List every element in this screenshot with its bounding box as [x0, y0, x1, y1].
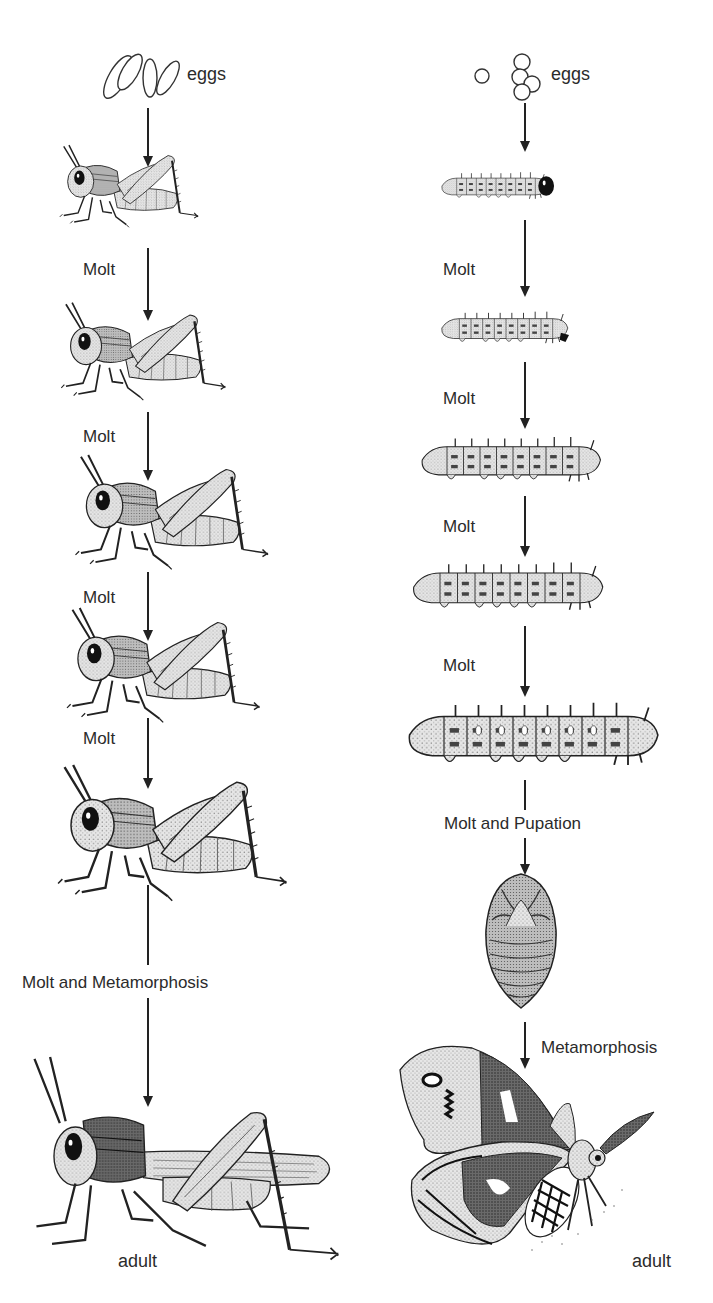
caterpillar-larva-2-illustration: [436, 300, 576, 356]
arrow-line: [524, 362, 526, 420]
arrow-head: [520, 141, 530, 152]
caterpillar-larva-3-illustration: [414, 428, 612, 492]
grasshopper-nymph-5-illustration: [28, 765, 310, 905]
right-adult-label: adult: [632, 1251, 671, 1272]
moth-eggs-icon: [470, 50, 540, 106]
caterpillar-larva-4-illustration: [405, 556, 615, 618]
left-metamorphosis-label: Molt and Metamorphosis: [22, 973, 208, 993]
left-molt-4-label: Molt: [83, 729, 115, 749]
right-molt-2-label: Molt: [443, 389, 475, 409]
grasshopper-nymph-2-illustration: [52, 292, 230, 414]
right-eggs-label: eggs: [551, 64, 590, 85]
grasshopper-eggs-icon: [100, 50, 180, 105]
arrow-line: [524, 220, 526, 288]
right-molt-4-label: Molt: [443, 656, 475, 676]
right-molt-3-label: Molt: [443, 517, 475, 537]
moth-adult-illustration: [392, 1030, 662, 1265]
arrow-line: [524, 838, 526, 866]
left-eggs-label: eggs: [187, 64, 226, 85]
pupa-chrysalis-illustration: [482, 870, 560, 1012]
arrow-line: [524, 626, 526, 688]
left-molt-2-label: Molt: [83, 427, 115, 447]
arrow-head: [520, 286, 530, 297]
grasshopper-nymph-1-illustration: [52, 125, 202, 250]
grasshopper-adult-illustration: [15, 1055, 350, 1240]
arrow-line: [524, 496, 526, 548]
left-adult-label: adult: [118, 1251, 157, 1272]
arrow-line: [147, 885, 149, 965]
right-molt-1-label: Molt: [443, 260, 475, 280]
arrow-line: [524, 780, 526, 810]
grasshopper-nymph-4-illustration: [28, 608, 293, 726]
arrow-line: [524, 103, 526, 143]
left-molt-1-label: Molt: [83, 260, 115, 280]
caterpillar-larva-1-illustration: [437, 160, 555, 212]
caterpillar-larva-5-illustration: [398, 690, 674, 780]
left-molt-3-label: Molt: [83, 588, 115, 608]
right-pupation-label: Molt and Pupation: [444, 814, 581, 834]
grasshopper-nymph-3-illustration: [38, 455, 300, 573]
